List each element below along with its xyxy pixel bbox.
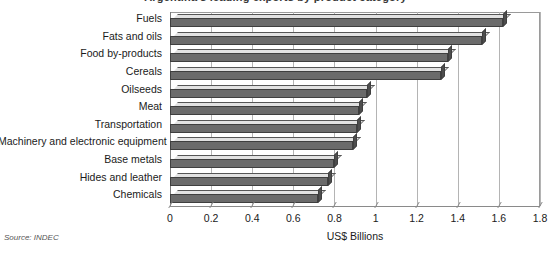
category-label: Chemicals [0,189,162,200]
category-label: Transportation [0,119,162,130]
bar [170,120,357,133]
bar [170,85,367,98]
bar-front-face [170,177,328,186]
bar [170,32,482,45]
category-label: Fuels [0,13,162,24]
bar [170,49,448,62]
x-axis-title: US$ Billions [170,230,540,242]
category-label: Fats and oils [0,31,162,42]
x-tick-label: 1.8 [533,212,548,224]
x-tick-label: 0.6 [286,212,301,224]
plot-area [170,12,540,206]
source-note: Source: INDEC [4,233,59,242]
x-tick-label: 0.4 [245,212,260,224]
category-label: Meat [0,101,162,112]
bar [170,137,353,150]
x-tick-label: 0.2 [204,212,219,224]
bar-front-face [170,124,357,133]
bar [170,155,334,168]
bar [170,173,328,186]
bar [170,14,503,27]
bar-front-face [170,71,441,80]
category-label: Base metals [0,154,162,165]
bar [170,67,441,80]
bar-front-face [170,194,318,203]
bar-front-face [170,141,353,150]
gridline [540,12,541,206]
category-label: Food by-products [0,48,162,59]
bar-front-face [170,53,448,62]
bar-front-face [170,36,482,45]
x-tick-label: 0.8 [327,212,342,224]
bar-front-face [170,106,359,115]
category-label: Cereals [0,66,162,77]
category-label: Hides and leather [0,172,162,183]
chart-title: Argentina's leading exports by product c… [0,0,551,3]
bar-front-face [170,159,334,168]
gridline [499,12,500,206]
x-tick-label: 1 [373,212,379,224]
x-axis: 00.20.40.60.811.21.41.61.8 [170,206,540,209]
category-label: Oilseeds [0,84,162,95]
x-tick-label: 0 [167,212,173,224]
category-label: Machinery and electronic equipment [0,136,162,147]
bar-front-face [170,89,367,98]
x-tick-label: 1.4 [450,212,465,224]
category-axis: FuelsFats and oilsFood by-productsCereal… [0,10,166,206]
bar [170,102,359,115]
bar-front-face [170,18,503,27]
x-tick-label: 1.6 [492,212,507,224]
x-tick-label: 1.2 [409,212,424,224]
